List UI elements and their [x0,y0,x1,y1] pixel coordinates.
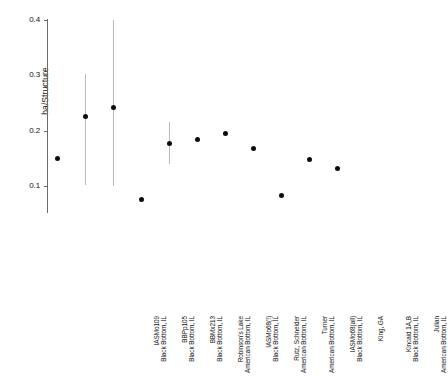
x-tick-label: IASMo68(!) Black Bottom, IL [265,316,280,377]
data-point[interactable] [251,146,256,151]
data-point[interactable] [335,166,340,171]
plot-area [47,14,363,212]
y-tick-label: 0.1 [14,181,40,190]
data-point[interactable] [55,156,60,161]
y-tick-label: 0.3 [14,70,40,79]
x-tick-label: Julian American Bottom, IL [433,316,448,377]
y-tick-label: 0.2 [14,126,40,135]
data-point[interactable] [167,141,172,146]
data-point[interactable] [307,157,312,162]
x-tick-label: Turner American Bottom, IL [321,316,336,377]
y-tick-label: 0.4 [14,15,40,24]
error-bar [85,74,86,185]
x-tick-label: IASMo109 Black Bottom, IL [153,316,168,377]
x-tick-label: King, GA [377,316,384,377]
data-point[interactable] [279,193,284,198]
data-point[interactable] [83,114,88,119]
x-tick-label: Robinson's Lake American Bottom, IL [237,316,252,377]
x-tick-label: Rutz, Schneider American Bottom, IL [293,316,308,377]
data-point[interactable] [223,131,228,136]
data-point[interactable] [139,197,144,202]
data-point[interactable] [195,137,200,142]
data-point[interactable] [111,105,116,110]
x-tick-label: Kincaid 1A,B Black Bottom, IL [405,316,420,377]
x-tick-label: BBMx213 Black Bottom, IL [209,316,224,377]
error-bar [113,20,114,186]
x-tick-label: IASMo68(all) Black Bottom, IL [349,316,364,377]
x-tick-label: BBPp105 Black Bottom, IL [181,316,196,377]
